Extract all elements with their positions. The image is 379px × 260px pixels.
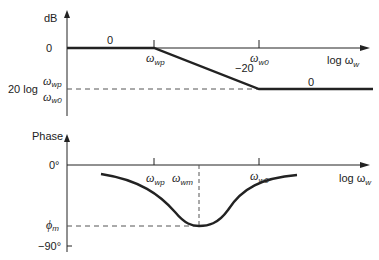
log-w-label-top: log ωw [327,54,360,69]
phase-axis-arrow-icon [64,134,70,142]
db-axis-label: dB [44,12,57,24]
freq-label-w0-phase: ωw0 [250,169,269,185]
phase-plot: Phase 0° −90° ϕm ωwp ωwm ωw0 log ωw [32,130,372,252]
phim-label: ϕm [46,218,59,233]
freq-label-wp-phase: ωwp [146,171,165,187]
zero-degree-label: 0° [49,159,60,171]
freq-label-wm: ωwm [172,171,193,187]
db-axis-arrow-icon [64,10,70,18]
freq-label-w0: ωw0 [250,51,269,67]
zero-db-label: 0 [46,42,52,54]
frequency-axis-arrow-icon [360,45,370,51]
bode-diagram: dB 0 0 −20 0 ωwp ωw0 log ωw 20 log ωwp ω… [0,0,379,260]
low-level-denominator: ωw0 [43,90,62,105]
freq-label-wp: ωwp [146,51,165,67]
slope-label-0-left: 0 [107,34,113,46]
slope-label-0-right: 0 [308,76,314,88]
minus90-label: −90° [38,240,61,252]
low-level-numerator: ωwp [43,74,62,89]
log-w-label-bottom: log ωw [339,172,372,187]
phase-axis-label: Phase [32,130,63,142]
magnitude-plot: dB 0 0 −20 0 ωwp ωw0 log ωw 20 log ωwp ω… [8,10,373,116]
phase-frequency-axis-arrow-icon [360,162,370,168]
low-level-prefix: 20 log [8,83,38,95]
